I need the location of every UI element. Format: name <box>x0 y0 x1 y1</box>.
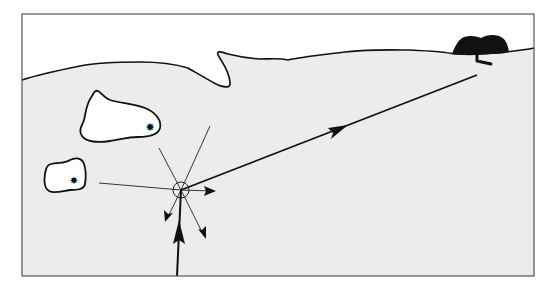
star-icon-small-island: ✸ <box>70 175 78 186</box>
star-icon-large-island: ✸ <box>145 121 154 134</box>
island-small <box>44 158 85 192</box>
sea-map-diagram: ✸ ✸ <box>0 0 555 290</box>
